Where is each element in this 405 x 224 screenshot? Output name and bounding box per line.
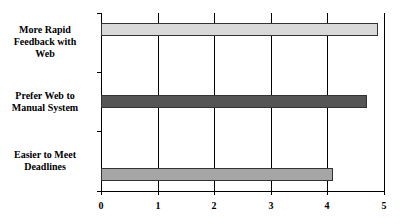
bar-prefer-web [101, 95, 367, 108]
label-line: More Rapid [0, 24, 95, 36]
x-axis [97, 191, 384, 192]
gridline-5 [384, 13, 385, 191]
y-tick [97, 131, 101, 132]
category-label-more-rapid-feedback: More Rapid Feedback with Web [0, 24, 95, 60]
x-tick-label-4: 4 [325, 200, 330, 211]
x-tick-label-3: 3 [269, 200, 274, 211]
label-line: Feedback with [0, 36, 95, 48]
x-tick-label-1: 1 [156, 200, 161, 211]
x-tick-label-5: 5 [382, 200, 387, 211]
label-line: Prefer Web to [0, 90, 95, 102]
x-tick [327, 191, 328, 195]
label-line: Web [0, 48, 95, 60]
bar-easier-deadlines [101, 168, 333, 181]
category-label-easier-deadlines: Easier to Meet Deadlines [0, 149, 95, 173]
label-line: Easier to Meet [0, 149, 95, 161]
x-tick [158, 191, 159, 195]
y-tick [97, 13, 101, 14]
bar-more-rapid-feedback [101, 23, 378, 36]
y-tick [97, 72, 101, 73]
label-line: Deadlines [0, 161, 95, 173]
x-tick [101, 191, 102, 195]
x-tick [271, 191, 272, 195]
label-line: Manual System [0, 102, 95, 114]
x-tick [384, 191, 385, 195]
x-tick-label-2: 2 [212, 200, 217, 211]
category-label-prefer-web: Prefer Web to Manual System [0, 90, 95, 114]
x-tick-label-0: 0 [99, 200, 104, 211]
plot-area [101, 13, 384, 191]
x-tick [214, 191, 215, 195]
